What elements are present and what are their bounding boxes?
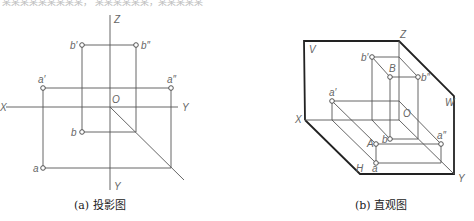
label-a-dprime: a″ [167,74,177,85]
point-a-dprime [439,142,444,147]
projection-figure: 某某某某某某某某某， 某某某某某某，某某某某某 Z X Y Y O b′ b″ … [0,0,474,221]
point-B [388,75,393,80]
point-a-prime [330,99,335,104]
pictorial-diagram: V Z W X Y H O b′ B b″ b a′ A a a″ (b) 直观… [294,29,466,212]
caption-projection: (a) 投影图 [74,198,126,212]
point-b-dprime [134,43,139,48]
label-v: V [309,44,317,55]
point-b-dprime [416,75,421,80]
caption-pictorial: (b) 直观图 [355,198,407,212]
label-a: a [33,163,39,174]
label-x: X [0,102,7,113]
label-o: O [403,108,411,119]
projection-planes-frame [304,41,454,174]
label-b-dprime: b″ [141,40,151,51]
point-A [374,142,379,147]
label-A: A [366,138,374,149]
projection-diagram: Z X Y Y O b′ b″ b a′ a″ a (a) 投影图 [0,14,190,212]
point-a [41,166,46,171]
label-w: W [445,97,456,108]
label-a-prime: a′ [329,87,338,98]
label-y: Y [458,173,466,184]
label-b-dprime: b″ [421,72,431,83]
label-B: B [389,63,396,74]
point-b-prime [370,55,375,60]
point-a-prime [41,86,46,91]
label-h: H [356,163,364,174]
label-z: Z [113,14,121,25]
label-o: O [112,94,120,105]
45-degree-line [110,107,184,180]
label-y-bottom: Y [114,181,122,192]
point-a-dprime [169,86,174,91]
label-z: Z [399,29,407,40]
label-b-prime: b′ [361,52,370,63]
label-b: b [382,134,388,145]
point-b [388,137,393,142]
oy-axis [399,120,454,174]
z-to-b-dprime [399,57,418,77]
cropped-top-text: 某某某某某某某某某， 某某某某某某，某某某某某 [2,0,203,7]
label-y-right: Y [182,102,190,113]
label-x: X [294,114,302,125]
point-b-prime [80,43,85,48]
label-a: a [372,163,378,174]
label-a-prime: a′ [38,74,47,85]
b-prime-to-B [372,57,390,77]
label-a-dprime: a″ [437,130,447,141]
label-b: b [71,127,77,138]
label-b-prime: b′ [70,40,79,51]
point-b [80,130,85,135]
